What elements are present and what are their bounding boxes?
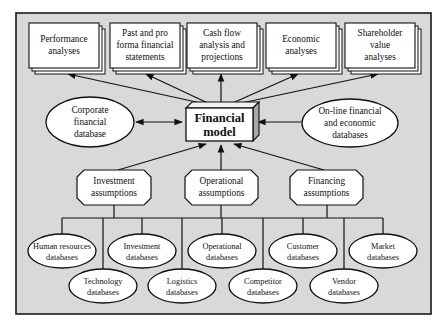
svg-text:databases: databases — [87, 288, 119, 297]
svg-text:Economic: Economic — [282, 34, 320, 44]
svg-text:Operational: Operational — [202, 242, 242, 251]
investment-assumptions: Investment assumptions — [77, 170, 151, 205]
competitor-databases: Competitor databases — [229, 269, 297, 303]
logistics-databases: Logistics databases — [148, 269, 216, 303]
output-label: Performance — [40, 34, 88, 44]
svg-text:Customer: Customer — [287, 242, 320, 251]
operational-databases: Operational databases — [188, 234, 256, 268]
svg-text:analyses: analyses — [364, 52, 396, 62]
svg-text:databases: databases — [126, 253, 158, 262]
svg-text:forma financial: forma financial — [116, 40, 173, 50]
svg-text:Human resources: Human resources — [33, 242, 91, 251]
output-box-past-pro-forma: Past and pro forma financial statements — [110, 23, 186, 74]
svg-text:Technology: Technology — [83, 277, 123, 286]
financial-model-label: Financial — [194, 111, 245, 125]
svg-text:assumptions: assumptions — [91, 188, 137, 198]
svg-text:Operational: Operational — [200, 176, 244, 186]
svg-text:Cash flow: Cash flow — [203, 28, 241, 38]
output-box-shareholder-value: Shareholder value analyses — [345, 23, 421, 74]
svg-text:model: model — [203, 125, 236, 139]
financial-model-cube: Financial model — [186, 102, 259, 141]
customer-databases: Customer databases — [269, 234, 337, 268]
svg-text:Financing: Financing — [308, 176, 346, 186]
svg-text:databases: databases — [166, 288, 198, 297]
svg-text:databases: databases — [328, 288, 360, 297]
svg-text:financial: financial — [74, 117, 107, 127]
investment-databases: Investment databases — [108, 234, 176, 268]
human-resources-databases: Human resources databases — [28, 234, 96, 268]
svg-text:Corporate: Corporate — [71, 105, 108, 115]
svg-text:analysis and: analysis and — [199, 40, 245, 50]
output-box-economic: Economic analyses — [266, 23, 342, 74]
svg-text:database: database — [74, 129, 106, 139]
svg-text:Investment: Investment — [124, 242, 162, 251]
svg-text:databases: databases — [247, 288, 279, 297]
svg-text:Investment: Investment — [93, 176, 135, 186]
online-financial-economic-databases: On-line financial and economic databases — [302, 99, 398, 147]
technology-databases: Technology databases — [69, 269, 137, 303]
svg-text:Past and pro: Past and pro — [122, 28, 168, 38]
svg-text:analyses: analyses — [285, 46, 317, 56]
output-box-cash-flow: Cash flow analysis and projections — [187, 23, 263, 74]
corporate-financial-database: Corporate financial database — [46, 97, 134, 147]
svg-text:Competitor: Competitor — [244, 277, 282, 286]
svg-text:databases: databases — [287, 253, 319, 262]
svg-text:analyses: analyses — [48, 46, 80, 56]
svg-text:projections: projections — [201, 52, 243, 62]
svg-text:databases: databases — [46, 253, 78, 262]
operational-assumptions: Operational assumptions — [185, 170, 258, 205]
output-box-performance: Performance analyses — [29, 23, 105, 74]
svg-text:Vendor: Vendor — [332, 277, 356, 286]
svg-text:On-line financial: On-line financial — [318, 106, 382, 116]
svg-text:Logistics: Logistics — [167, 277, 197, 286]
market-databases: Market databases — [349, 234, 417, 268]
svg-text:databases: databases — [206, 253, 238, 262]
svg-text:databases: databases — [332, 130, 368, 140]
svg-text:assumptions: assumptions — [304, 188, 350, 198]
svg-text:databases: databases — [367, 253, 399, 262]
financing-assumptions: Financing assumptions — [290, 170, 363, 205]
vendor-databases: Vendor databases — [310, 269, 378, 303]
svg-text:statements: statements — [125, 52, 165, 62]
svg-text:and economic: and economic — [324, 118, 376, 128]
svg-text:assumptions: assumptions — [199, 188, 245, 198]
svg-text:value: value — [370, 40, 390, 50]
svg-text:Market: Market — [371, 242, 396, 251]
svg-text:Shareholder: Shareholder — [358, 28, 404, 38]
financial-model-diagram: Performance analyses Past and pro forma … — [0, 0, 447, 329]
